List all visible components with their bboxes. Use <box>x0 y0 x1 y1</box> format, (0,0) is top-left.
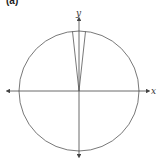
x-axis-label: x <box>151 86 156 96</box>
unit-circle-diagram: y x <box>0 0 160 163</box>
ray-left <box>73 32 80 92</box>
y-axis-label: y <box>75 8 82 18</box>
ray-right <box>79 32 86 92</box>
